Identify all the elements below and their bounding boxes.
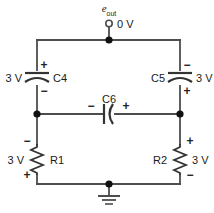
output-terminal-circle (106, 20, 112, 26)
circuit-diagram: eout 0 V 3 V C4 + − C5 3 V − + C6 − + 3 … (0, 0, 214, 213)
circuit-schematic-svg (0, 0, 214, 213)
c4-voltage-label: 3 V (5, 73, 22, 84)
resistor-r2-symbol (174, 144, 186, 175)
node-dot-left-mid (33, 110, 40, 117)
output-terminal-voltage-label: 0 V (117, 19, 134, 30)
capacitor-c5-symbol (168, 73, 192, 82)
r2-name-label: R2 (153, 155, 167, 166)
resistor-r1-symbol (31, 144, 43, 175)
c4-name-label: C4 (53, 73, 67, 84)
c5-name-label: C5 (151, 73, 165, 84)
output-terminal-symbol: eout (102, 3, 117, 18)
c5-minus-sign: − (183, 59, 190, 71)
r1-plus-sign: + (23, 169, 30, 181)
r2-minus-sign: − (186, 169, 193, 181)
r2-voltage-label: 3 V (192, 155, 209, 166)
c4-minus-sign: − (40, 85, 47, 97)
c6-name-label: C6 (102, 94, 116, 105)
node-dot-bottom (105, 180, 112, 187)
c6-plus-sign: + (122, 100, 129, 112)
c6-minus-sign: − (87, 100, 94, 112)
r1-name-label: R1 (50, 155, 64, 166)
c5-voltage-label: 3 V (196, 73, 213, 84)
capacitor-c4-symbol (25, 73, 49, 82)
node-dot-top (105, 36, 112, 43)
ground-symbol (98, 196, 120, 204)
r1-minus-sign: − (23, 135, 30, 147)
capacitor-c6-symbol (104, 104, 113, 124)
r2-plus-sign: + (186, 135, 193, 147)
r1-voltage-label: 3 V (7, 155, 24, 166)
c4-plus-sign: + (40, 59, 47, 71)
c5-plus-sign: + (183, 85, 190, 97)
node-dot-right-mid (176, 110, 183, 117)
